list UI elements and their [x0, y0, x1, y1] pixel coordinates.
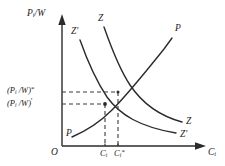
y-axis-label: Pi/W — [27, 9, 45, 19]
curve-p — [72, 38, 172, 137]
y-value-label-star: (Pi /W)* — [7, 86, 34, 95]
curve-label-p-top: P — [175, 24, 181, 34]
x-tick-label-star: Ci* — [114, 149, 125, 158]
equilibrium-point-initial — [103, 102, 107, 106]
plot-canvas — [0, 0, 225, 166]
economics-figure: Pi/W Ci O Z Z' P P Z Z' (Pi /W)* (Pi /W)… — [0, 0, 225, 166]
origin-label: O — [51, 148, 58, 158]
curve-label-z-prime-top: Z' — [71, 27, 78, 37]
curve-label-z-prime-right: Z' — [180, 130, 187, 140]
x-axis-label: Ci — [208, 148, 216, 158]
y-axis — [58, 14, 65, 146]
y-value-label-prime: (Pi /W)' — [7, 99, 32, 108]
curve-label-z-right: Z — [186, 117, 191, 127]
curve-label-p-bottom: P — [66, 129, 72, 139]
x-axis — [62, 142, 206, 149]
curve-z-prime — [80, 40, 176, 133]
curve-label-z-top: Z — [98, 14, 103, 24]
x-tick-label-prime: Ci — [100, 149, 107, 158]
equilibrium-point-new — [117, 91, 120, 94]
